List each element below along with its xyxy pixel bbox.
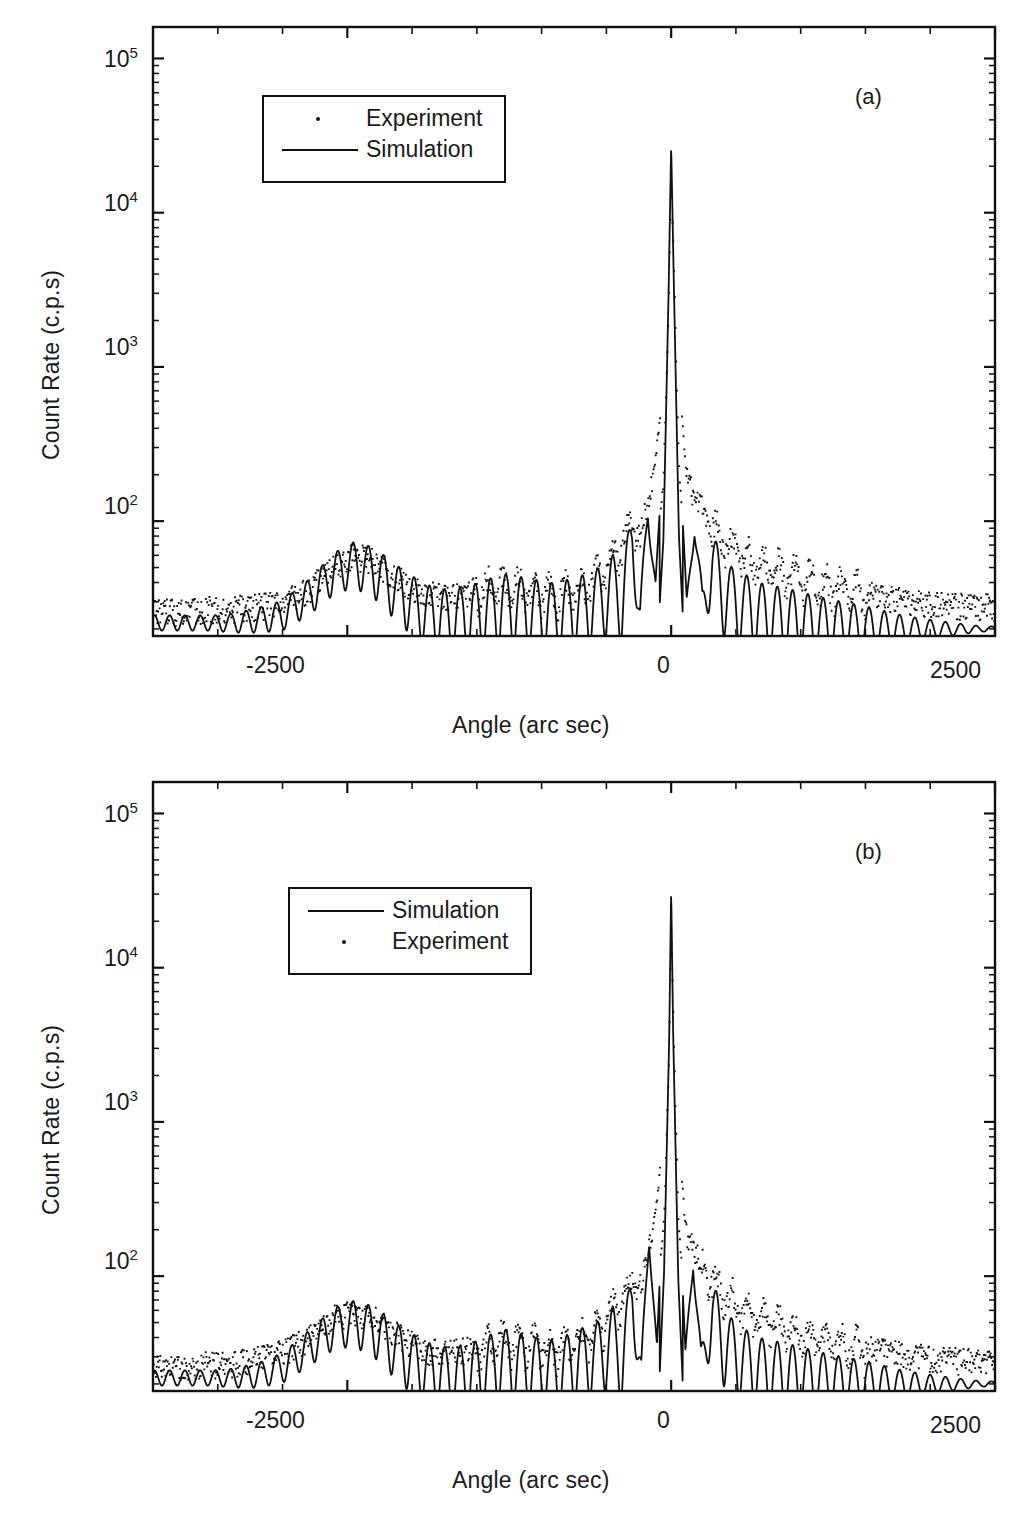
dot-marker-icon <box>274 109 366 129</box>
panel-b-ytick-1e4: 104 <box>104 943 138 972</box>
panel-a-ytick-1e5: 105 <box>104 44 138 73</box>
panel-a-ytick-1e3: 103 <box>104 332 138 361</box>
panel-a-x-axis-label: Angle (arc sec) <box>452 712 610 739</box>
panel-b-legend-label-0: Simulation <box>392 897 499 924</box>
dot-marker-icon <box>300 932 392 952</box>
panel-b: 105 104 103 102 -2500 0 2500 Count Rate … <box>0 755 1019 1528</box>
panel-b-xtick-neg2500: -2500 <box>246 1407 305 1434</box>
panel-b-legend-label-1: Experiment <box>392 928 508 955</box>
panel-b-xtick-2500: 2500 <box>930 1412 981 1439</box>
line-marker-icon <box>274 140 366 160</box>
panel-a-tag: (a) <box>855 84 882 110</box>
panel-a-xtick-neg2500: -2500 <box>246 652 305 679</box>
panel-a-plot <box>0 0 1019 760</box>
panel-a-legend: Experiment Simulation <box>262 95 506 183</box>
panel-a-legend-row-simulation: Simulation <box>274 134 490 165</box>
line-marker-icon <box>300 901 392 921</box>
panel-a-y-axis-label: Count Rate (c.p.s) <box>38 270 65 460</box>
panel-b-x-axis-label: Angle (arc sec) <box>452 1467 610 1494</box>
panel-a-xtick-2500: 2500 <box>930 657 981 684</box>
panel-b-legend-row-experiment: Experiment <box>300 926 516 957</box>
panel-a-legend-label-1: Simulation <box>366 136 473 163</box>
panel-b-legend: Simulation Experiment <box>288 887 532 975</box>
panel-b-ytick-1e3: 103 <box>104 1087 138 1116</box>
panel-b-ytick-1e2: 102 <box>104 1246 138 1275</box>
panel-a-xtick-0: 0 <box>657 652 670 679</box>
panel-a-legend-row-experiment: Experiment <box>274 103 490 134</box>
panel-a-ytick-1e2: 102 <box>104 491 138 520</box>
figure-root: 105 104 103 102 -2500 0 2500 Count Rate … <box>0 0 1019 1528</box>
panel-b-legend-row-simulation: Simulation <box>300 895 516 926</box>
panel-b-y-axis-label: Count Rate (c.p.s) <box>38 1025 65 1215</box>
panel-a-legend-label-0: Experiment <box>366 105 482 132</box>
panel-b-ytick-1e5: 105 <box>104 799 138 828</box>
panel-a-ytick-1e4: 104 <box>104 188 138 217</box>
panel-a: 105 104 103 102 -2500 0 2500 Count Rate … <box>0 0 1019 760</box>
panel-b-plot <box>0 755 1019 1528</box>
panel-b-xtick-0: 0 <box>657 1407 670 1434</box>
panel-b-tag: (b) <box>855 839 882 865</box>
